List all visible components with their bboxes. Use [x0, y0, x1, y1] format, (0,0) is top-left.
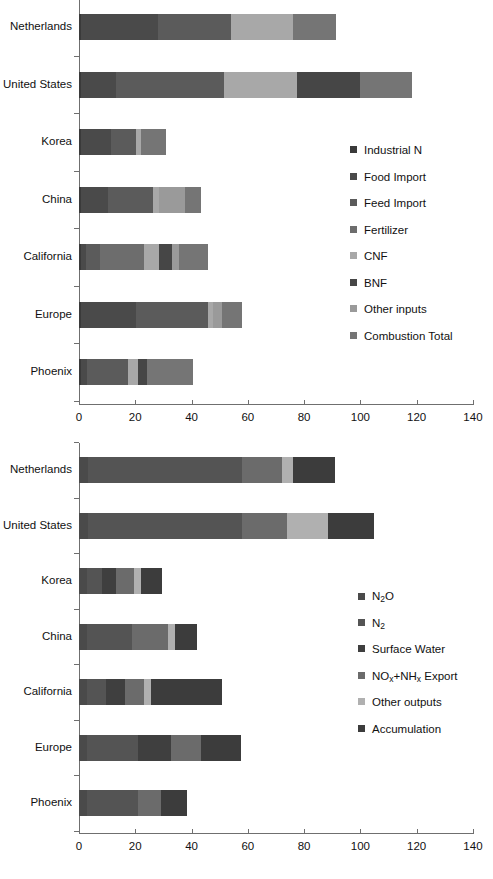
legend-item-label: Accumulation — [372, 723, 441, 736]
x-axis-tick-label: 40 — [172, 411, 212, 423]
legend-item[interactable]: Other outputs — [358, 696, 458, 723]
legend-swatch-icon — [350, 173, 357, 180]
bar-segment — [81, 359, 88, 385]
bar-segment — [293, 14, 336, 40]
bar-segment — [87, 790, 138, 816]
legend-item-label: Feed Import — [364, 197, 426, 210]
y-axis-tick — [74, 343, 79, 344]
y-axis-tick — [74, 442, 79, 443]
x-axis-tick-label: 40 — [172, 840, 212, 852]
category-label: China — [42, 630, 72, 642]
legend-swatch-icon — [350, 199, 357, 206]
bar-segment — [293, 457, 335, 483]
y-axis-tick — [74, 171, 79, 172]
bar-segment — [222, 302, 241, 328]
x-axis-tick-label: 0 — [59, 840, 99, 852]
bar-segment — [116, 72, 223, 98]
x-axis-tick-label: 120 — [397, 840, 437, 852]
legend-swatch-icon — [358, 619, 365, 626]
legend-swatch-icon — [350, 332, 357, 339]
legend-item[interactable]: Industrial N — [350, 144, 453, 171]
bar-segment — [171, 735, 201, 761]
bar-segment — [179, 244, 209, 270]
bar-segment — [151, 679, 222, 705]
bar-segment — [242, 457, 282, 483]
y-axis-tick — [74, 113, 79, 114]
bar-segment — [79, 790, 87, 816]
legend-item[interactable]: BNF — [350, 277, 453, 304]
category-label: Netherlands — [10, 20, 72, 32]
bar-segment — [159, 244, 172, 270]
y-axis-tick — [74, 775, 79, 776]
x-axis-tick — [248, 829, 249, 833]
legend-item-label: Food Import — [364, 171, 426, 184]
legend-item[interactable]: Surface Water — [358, 643, 458, 670]
x-axis-tick-label: 0 — [59, 411, 99, 423]
bar-segment — [159, 187, 185, 213]
category-label: Netherlands — [10, 463, 72, 475]
chart-panel-nitrogen-outputs: NetherlandsUnited StatesKoreaChinaCalifo… — [0, 440, 493, 879]
bar-segment — [158, 14, 231, 40]
bar-europe — [79, 735, 241, 761]
bar-segment — [81, 129, 111, 155]
x-axis-line — [79, 404, 474, 405]
legend-item-label: Combustion Total — [364, 330, 453, 343]
legend-item-label: Fertilizer — [364, 224, 408, 237]
legend-item[interactable]: Fertilizer — [350, 224, 453, 251]
legend-item[interactable]: N2O — [358, 590, 458, 617]
bar-phoenix — [79, 359, 193, 385]
x-axis-tick — [192, 400, 193, 404]
bar-segment — [88, 457, 242, 483]
category-label: China — [42, 193, 72, 205]
legend-item[interactable]: Feed Import — [350, 197, 453, 224]
legend-item-label: Surface Water — [372, 643, 445, 656]
x-axis-tick-label: 60 — [228, 840, 268, 852]
legend-item-label: CNF — [364, 250, 388, 263]
bar-segment — [87, 679, 105, 705]
x-axis-tick — [417, 829, 418, 833]
x-axis-line — [79, 833, 474, 834]
plot-area-bottom: NetherlandsUnited StatesKoreaChinaCalifo… — [0, 440, 493, 879]
x-axis-tick — [79, 829, 80, 833]
bar-segment — [79, 624, 87, 650]
bar-segment — [144, 244, 159, 270]
legend-item[interactable]: Food Import — [350, 171, 453, 198]
legend-item[interactable]: Other inputs — [350, 303, 453, 330]
legend-item[interactable]: CNF — [350, 250, 453, 277]
x-axis-tick-label: 140 — [453, 411, 493, 423]
bar-segment — [79, 679, 87, 705]
x-axis-tick-label: 20 — [115, 411, 155, 423]
bar-segment — [172, 244, 179, 270]
x-axis-tick-label: 140 — [453, 840, 493, 852]
legend-item[interactable]: NOx+NHx Export — [358, 670, 458, 697]
legend-swatch-icon — [358, 593, 365, 600]
bar-segment — [79, 568, 87, 594]
legend-item-label: Other inputs — [364, 303, 427, 316]
bar-segment — [141, 129, 166, 155]
bar-segment — [81, 187, 108, 213]
y-axis-tick — [74, 720, 79, 721]
x-axis-tick — [79, 400, 80, 404]
x-axis-tick — [304, 829, 305, 833]
bar-china — [79, 187, 201, 213]
bar-segment — [175, 624, 198, 650]
legend-item[interactable]: Combustion Total — [350, 330, 453, 357]
bar-segment — [79, 513, 88, 539]
y-axis-tick — [74, 664, 79, 665]
bar-california — [79, 679, 222, 705]
legend-swatch-icon — [350, 305, 357, 312]
bar-segment — [87, 624, 132, 650]
legend-item[interactable]: N2 — [358, 617, 458, 644]
y-axis-tick — [74, 56, 79, 57]
y-axis-tick — [74, 228, 79, 229]
bar-segment — [86, 244, 101, 270]
bar-segment — [282, 457, 294, 483]
legend-swatch-icon — [358, 698, 365, 705]
bar-china — [79, 624, 197, 650]
legend-item-label: BNF — [364, 277, 387, 290]
legend-item[interactable]: Accumulation — [358, 723, 458, 750]
bar-segment — [201, 735, 241, 761]
bar-segment — [231, 14, 293, 40]
category-label: California — [23, 685, 72, 697]
legend-swatch-icon — [358, 645, 365, 652]
